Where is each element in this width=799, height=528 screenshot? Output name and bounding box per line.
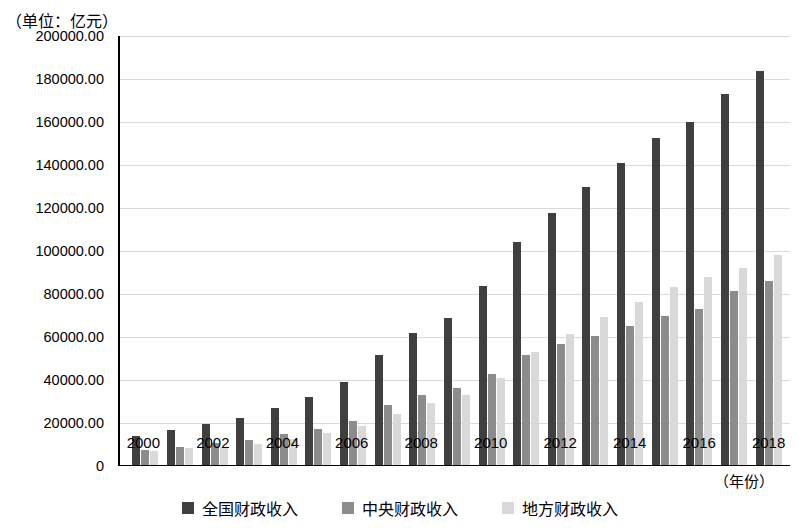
bar-national: [686, 122, 694, 465]
bar-group: [682, 36, 717, 465]
x-tick-label: 2010: [474, 434, 507, 451]
legend-swatch-local: [502, 502, 514, 514]
y-tick-label: 80000.00: [44, 287, 104, 301]
x-tick-label: 2004: [266, 434, 299, 451]
bar-national: [617, 163, 625, 465]
x-tick-label: 2014: [613, 434, 646, 451]
y-axis-labels: 020000.0040000.0060000.0080000.00100000.…: [0, 36, 110, 466]
y-tick-label: 140000.00: [35, 158, 104, 172]
bar-national: [548, 213, 556, 465]
bar-group: [232, 36, 267, 465]
chart-page: （单位：亿元） 020000.0040000.0060000.0080000.0…: [0, 0, 799, 528]
bar-group: [336, 36, 371, 465]
bar-group: [405, 36, 440, 465]
x-axis-labels: 2000200220042006200820102012201420162018: [118, 434, 790, 460]
bar-group: [440, 36, 475, 465]
x-axis-unit-caption: （年份）: [714, 470, 774, 491]
legend-swatch-national: [182, 502, 194, 514]
legend-item: 全国财政收入: [182, 496, 298, 520]
y-tick-label: 20000.00: [44, 416, 104, 430]
y-tick-label: 100000.00: [35, 244, 104, 258]
chart-legend: 全国财政收入中央财政收入地方财政收入: [0, 496, 799, 520]
x-tick-label: 2016: [682, 434, 715, 451]
bar-group: [751, 36, 786, 465]
x-tick-label: 2012: [544, 434, 577, 451]
bar-group: [474, 36, 509, 465]
bar-national: [582, 187, 590, 465]
y-tick-label: 180000.00: [35, 72, 104, 86]
bar-group: [613, 36, 648, 465]
bar-national: [721, 94, 729, 465]
bar-national: [756, 71, 764, 465]
legend-item: 中央财政收入: [342, 496, 458, 520]
legend-label-national: 全国财政收入: [202, 496, 298, 520]
bar-group: [647, 36, 682, 465]
x-tick-label: 2002: [196, 434, 229, 451]
x-tick-label: 2008: [405, 434, 438, 451]
bar-national: [652, 138, 660, 465]
bar-group: [370, 36, 405, 465]
x-tick-label: 2018: [752, 434, 785, 451]
plot-wrapper: 020000.0040000.0060000.0080000.00100000.…: [0, 36, 799, 476]
x-tick-label: 2000: [127, 434, 160, 451]
bar-national: [513, 242, 521, 465]
bar-group: [544, 36, 579, 465]
bar-group: [128, 36, 163, 465]
y-tick-label: 120000.00: [35, 201, 104, 215]
legend-label-local: 地方财政收入: [522, 496, 618, 520]
bar-groups: [120, 36, 790, 465]
y-tick-label: 60000.00: [44, 330, 104, 344]
x-tick-label: 2006: [335, 434, 368, 451]
plot-area: [118, 36, 790, 466]
legend-swatch-central: [342, 502, 354, 514]
y-tick-label: 40000.00: [44, 373, 104, 387]
bar-group: [267, 36, 302, 465]
legend-label-central: 中央财政收入: [362, 496, 458, 520]
y-tick-label: 0: [96, 459, 104, 473]
y-tick-label: 200000.00: [35, 29, 104, 43]
bar-group: [578, 36, 613, 465]
bar-group: [197, 36, 232, 465]
legend-item: 地方财政收入: [502, 496, 618, 520]
y-tick-label: 160000.00: [35, 115, 104, 129]
bar-group: [717, 36, 752, 465]
bar-group: [163, 36, 198, 465]
bar-group: [509, 36, 544, 465]
bar-group: [301, 36, 336, 465]
